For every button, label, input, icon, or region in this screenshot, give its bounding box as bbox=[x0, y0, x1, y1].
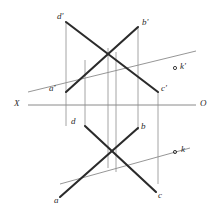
label-c-prime: c' bbox=[161, 84, 167, 93]
label-b-prime: b' bbox=[142, 18, 148, 27]
label-k: k bbox=[181, 145, 185, 154]
label-d: d bbox=[71, 117, 76, 126]
point-marker-k-prime bbox=[173, 66, 176, 69]
connector-lines-group bbox=[66, 22, 158, 184]
segment-d-b bbox=[85, 126, 156, 192]
point-markers-group bbox=[173, 66, 176, 153]
label-b: b bbox=[141, 122, 146, 131]
thin-auxiliary-lines-group bbox=[28, 51, 196, 184]
label-a: a bbox=[54, 196, 59, 205]
segment-d-prime-c-prime bbox=[66, 22, 158, 92]
axis-label-o: O bbox=[200, 99, 207, 108]
segment-a-prime-b-prime bbox=[66, 27, 138, 92]
label-a-prime: a' bbox=[49, 84, 55, 93]
label-k-prime: k' bbox=[180, 62, 186, 71]
projection-drawing-canvas: d' b' a' c' k' d b a c k X O bbox=[0, 0, 223, 224]
label-c: c bbox=[158, 191, 162, 200]
label-d-prime: d' bbox=[57, 12, 63, 21]
axis-label-x: X bbox=[14, 99, 20, 108]
geometry-drawing-svg bbox=[0, 0, 223, 224]
